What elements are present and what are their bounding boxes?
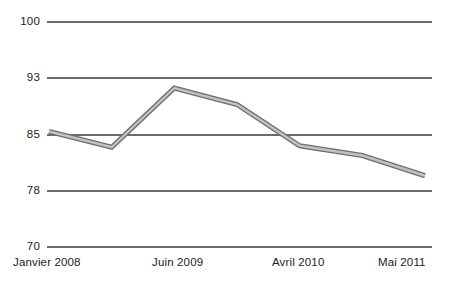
series-line-inner [49,88,425,176]
y-axis-label-93: 93 [6,72,40,84]
x-axis-label-janvier-2008: Janvier 2008 [13,256,81,268]
gridlines [47,22,432,247]
x-axis-label-juin-2009: Juin 2009 [152,256,203,268]
y-axis-label-100: 100 [6,16,40,28]
series-line-outline [49,88,425,176]
x-axis-label-mai-2011: Mai 2011 [378,256,426,268]
y-axis-label-70: 70 [6,241,40,253]
chart-plot-area [0,0,456,286]
y-axis-label-85: 85 [6,129,40,141]
line-chart: 100 93 85 78 70 Janvier 2008 Juin 2009 A… [0,0,456,286]
x-axis-label-avril-2010: Avril 2010 [272,256,324,268]
y-axis-label-78: 78 [6,185,40,197]
series-line [49,88,425,176]
